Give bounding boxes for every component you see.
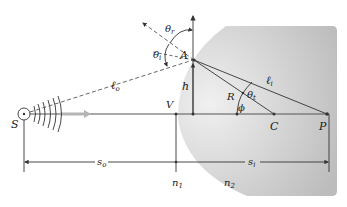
label-V: V: [166, 99, 175, 110]
label-theta-i: θi: [153, 49, 161, 62]
propagation-arrow-head: [84, 110, 91, 118]
label-phi: ϕ: [238, 102, 245, 113]
refraction-diagram: S V A h R ϕ C P θr θi θt ℓo ℓi so si n1 …: [0, 0, 347, 207]
label-R: R: [226, 91, 235, 102]
label-so: so: [97, 156, 106, 169]
label-h: h: [182, 80, 189, 93]
label-theta-r: θr: [165, 23, 175, 36]
label-C: C: [270, 120, 279, 133]
medium-n2-region: [178, 26, 337, 196]
label-P: P: [318, 120, 327, 133]
label-A: A: [179, 49, 188, 62]
image-point: [325, 112, 329, 116]
theta-i-arc: [165, 44, 169, 66]
label-lo: ℓo: [111, 79, 120, 93]
label-n1: n1: [172, 177, 183, 190]
label-S: S: [11, 118, 19, 131]
center-point: [273, 113, 276, 116]
